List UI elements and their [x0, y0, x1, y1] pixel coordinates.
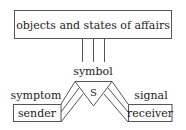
- receiver-box-label: receiver: [127, 107, 174, 120]
- sign-glyph: S: [90, 87, 97, 98]
- organon-model-diagram: objects and states of affairs symbol S s…: [0, 0, 186, 130]
- symbol-label: symbol: [73, 65, 113, 78]
- symptom-label: symptom: [11, 89, 62, 102]
- sender-box-label: sender: [18, 107, 57, 120]
- signal-label: signal: [134, 89, 168, 102]
- representation-lines: [83, 39, 105, 62]
- receiver-box: receiver: [127, 105, 174, 122]
- objects-box-label: objects and states of affairs: [16, 19, 170, 32]
- sign-triangle: S: [75, 82, 112, 107]
- sender-box: sender: [14, 105, 62, 122]
- objects-box: objects and states of affairs: [15, 11, 172, 39]
